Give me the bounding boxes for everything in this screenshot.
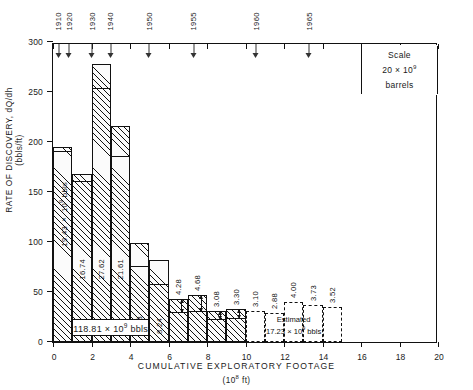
bar-inner-level <box>149 284 168 285</box>
bar-inner-level <box>72 181 91 182</box>
bar-inner-level <box>130 266 149 267</box>
scale-legend-box: Scale 20 × 109 barrels <box>361 46 438 94</box>
bar-range-arrow-icon <box>181 299 182 313</box>
x-axis-title: CUMULATIVE EXPLORATORY FOOTAGE <box>0 361 473 371</box>
bar-10 <box>226 309 245 342</box>
year-marker-label: 1950 <box>145 12 154 31</box>
x-tick: 6 <box>169 342 170 347</box>
x-tick-top <box>323 44 324 49</box>
scale-legend-inner: Scale 20 × 109 barrels <box>362 45 437 95</box>
year-marker-label: 1910 <box>54 12 63 31</box>
plot-area: 050100150200250300 02468101214161820 191… <box>52 43 437 343</box>
bar-body <box>111 126 130 342</box>
bar-2 <box>72 174 91 342</box>
y-axis-title: RATE OF DISCOVERY, dQ/dh (bbls/ft) <box>4 87 24 213</box>
bar-value-label-3: 27.62 <box>97 259 106 280</box>
y-tick-label: 250 <box>28 87 43 97</box>
year-marker-label: 1965 <box>305 12 314 31</box>
y-tick: 200 <box>47 141 53 142</box>
bar-body <box>226 309 245 342</box>
bar-body <box>323 307 342 342</box>
x-tick-top <box>438 44 439 49</box>
year-marker-arrow-icon <box>253 53 259 58</box>
estimated-caption: Estimated 17.23 × 109 bbls <box>265 315 323 337</box>
x-tick: 0 <box>53 342 54 347</box>
year-marker-arrow-icon <box>66 53 72 58</box>
chart-root: RATE OF DISCOVERY, dQ/dh (bbls/ft) 05010… <box>0 0 473 390</box>
bar-value-label-14: 3.73 <box>309 285 318 301</box>
bar-inner-level <box>53 151 72 152</box>
year-marker-arrow-icon <box>89 53 95 58</box>
year-marker-label: 1955 <box>189 12 198 31</box>
bar-3 <box>92 64 111 342</box>
bar-4 <box>111 126 130 342</box>
year-marker-label: 1940 <box>106 12 115 31</box>
scale-legend-value: 20 × 109 barrels <box>371 62 428 92</box>
bar-value-label-8: 4.68 <box>193 275 202 291</box>
bar-body <box>72 174 91 342</box>
bar-value-label-6: 8.24 <box>155 318 164 334</box>
bar-8 <box>188 295 207 342</box>
bar-inner-level <box>111 156 130 157</box>
bar-value-label-11: 3.10 <box>251 291 260 307</box>
x-tick: 16 <box>361 342 362 347</box>
y-tick: 300 <box>47 41 53 42</box>
year-marker-label: 1960 <box>252 12 261 31</box>
bar-11 <box>246 311 265 342</box>
bar-inner-level <box>169 312 188 313</box>
y-tick-label: 0 <box>38 337 43 347</box>
bar-range-arrow-icon <box>220 311 221 320</box>
bar-body <box>92 64 111 342</box>
bar-value-label-13: 4.00 <box>289 282 298 298</box>
y-tick-label: 300 <box>28 37 43 47</box>
bar-range-arrow-icon <box>239 309 240 319</box>
bar-inner-level <box>188 311 207 312</box>
year-marker-arrow-icon <box>190 53 196 58</box>
bar-inner-level <box>207 319 226 320</box>
bar-body <box>188 295 207 342</box>
bar-15 <box>323 307 342 342</box>
y-tick-label: 100 <box>28 237 43 247</box>
x-tick: 20 <box>438 342 439 347</box>
bar-inner-level <box>92 88 111 89</box>
bar-body <box>207 311 226 342</box>
year-marker-arrow-icon <box>55 53 61 58</box>
bar-7 <box>169 299 188 342</box>
x-tick: 12 <box>284 342 285 347</box>
year-marker-label: 1920 <box>65 12 74 31</box>
x-tick-top <box>130 44 131 49</box>
x-tick-top <box>246 44 247 49</box>
y-tick: 250 <box>47 91 53 92</box>
estimated-caption-line2: 17.23 × 109 bbls <box>265 325 323 337</box>
year-marker-arrow-icon <box>107 53 113 58</box>
y-tick-label: 150 <box>28 187 43 197</box>
x-tick-top <box>169 44 170 49</box>
cumulative-discovery-label: 118.81 × 109 bbls <box>73 322 148 334</box>
year-marker-label: 1930 <box>88 12 97 31</box>
x-tick: 10 <box>246 342 247 347</box>
y-axis-title-line1: RATE OF DISCOVERY, dQ/dh <box>4 87 14 213</box>
year-marker-arrow-icon <box>146 53 152 58</box>
bar-value-label-9: 3.08 <box>212 291 221 307</box>
x-tick: 4 <box>130 342 131 347</box>
y-tick-label: 200 <box>28 137 43 147</box>
bar-value-label-10: 3.30 <box>232 289 241 305</box>
scale-legend-title: Scale <box>371 48 428 62</box>
x-tick-top <box>284 44 285 49</box>
year-marker-arrow-icon <box>306 53 312 58</box>
y-axis-title-line2: (bbls/ft) <box>14 87 24 213</box>
bar-value-label-4: 21.61 <box>116 259 125 280</box>
bar-value-label-1: 19.43 × 109 bbls <box>58 182 69 247</box>
bar-body <box>246 311 265 342</box>
bar-range-arrow-icon <box>201 295 202 312</box>
bar-value-label-2: 16.74 <box>78 259 87 280</box>
x-tick-top <box>53 44 54 49</box>
x-tick: 2 <box>92 342 93 347</box>
estimated-caption-line1: Estimated <box>265 315 323 325</box>
bar-inner-level <box>226 318 245 319</box>
x-axis-units: (108 ft) <box>0 374 473 385</box>
cumulative-discovery-box: 118.81 × 109 bbls <box>72 319 149 336</box>
x-tick: 18 <box>400 342 401 347</box>
bar-value-label-15: 3.52 <box>328 287 337 303</box>
bar-value-label-7: 4.28 <box>174 279 183 295</box>
